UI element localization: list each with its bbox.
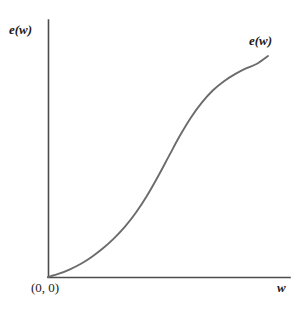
sigmoid-curve — [48, 56, 268, 277]
x-axis-label: w — [277, 281, 286, 294]
y-axis-label: e(w) — [9, 23, 32, 36]
effort-curve-figure: e(w) e(w) w (0, 0) — [0, 0, 307, 311]
curve-label: e(w) — [249, 34, 272, 47]
axes-group — [48, 20, 290, 278]
origin-label: (0, 0) — [31, 281, 59, 294]
curve-group — [48, 56, 268, 277]
